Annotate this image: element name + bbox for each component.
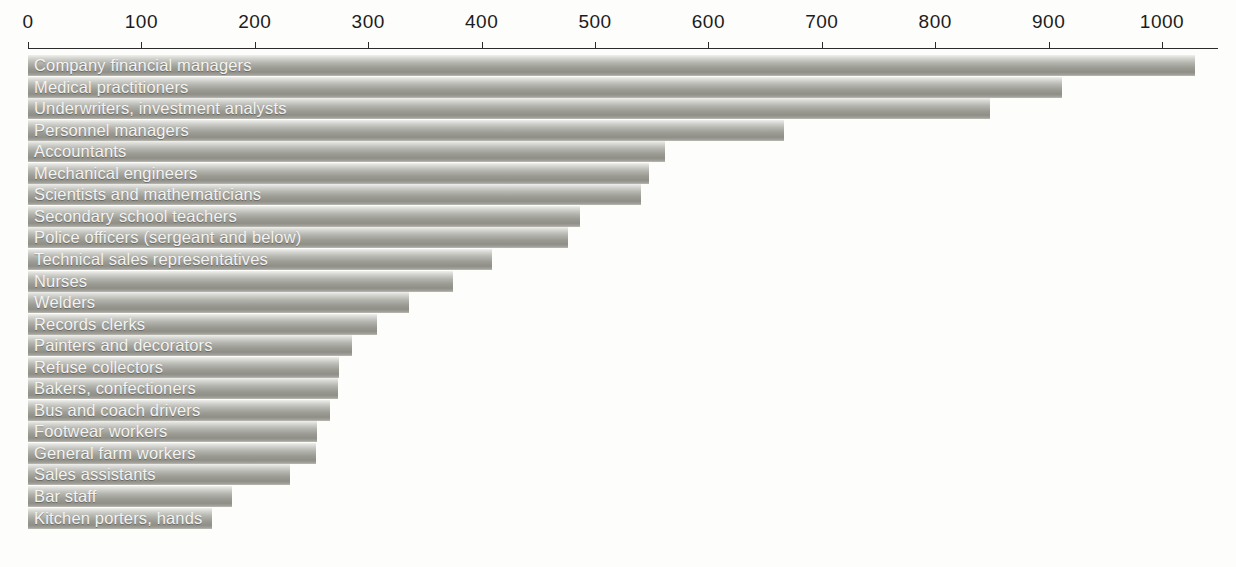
- bar-row[interactable]: Scientists and mathematicians: [28, 184, 641, 205]
- bar-row[interactable]: Police officers (sergeant and below): [28, 227, 568, 248]
- bar[interactable]: [28, 378, 338, 399]
- axis-tick-mark: [141, 42, 142, 49]
- bar-row[interactable]: General farm workers: [28, 443, 316, 464]
- axis-tick-label: 500: [578, 11, 611, 33]
- bar-row[interactable]: Secondary school teachers: [28, 206, 580, 227]
- axis-line: [28, 48, 1218, 49]
- bar[interactable]: [28, 141, 665, 162]
- bar[interactable]: [28, 184, 641, 205]
- bar[interactable]: [28, 464, 290, 485]
- axis-tick-mark: [28, 42, 29, 49]
- bar[interactable]: [28, 271, 453, 292]
- bar-row[interactable]: Bar staff: [28, 486, 232, 507]
- bar[interactable]: [28, 227, 568, 248]
- axis-tick-label: 1000: [1140, 11, 1184, 33]
- axis-tick-mark: [935, 42, 936, 49]
- axis-tick-label: 100: [125, 11, 158, 33]
- axis-tick-label: 0: [22, 11, 33, 33]
- bar-row[interactable]: Mechanical engineers: [28, 163, 649, 184]
- bar-row[interactable]: Footwear workers: [28, 421, 317, 442]
- axis-tick-mark: [482, 42, 483, 49]
- axis-tick-mark: [1049, 42, 1050, 49]
- bar-row[interactable]: Personnel managers: [28, 120, 784, 141]
- bar[interactable]: [28, 508, 212, 529]
- axis-tick-mark: [822, 42, 823, 49]
- bar-row[interactable]: Welders: [28, 292, 409, 313]
- bar-row[interactable]: Bus and coach drivers: [28, 400, 330, 421]
- x-axis: 01002003004005006007008009001000: [0, 0, 1236, 52]
- axis-tick-label: 700: [805, 11, 838, 33]
- bar-row[interactable]: Sales assistants: [28, 464, 290, 485]
- plot-area: Company financial managersMedical practi…: [0, 55, 1236, 555]
- bar-row[interactable]: Bakers, confectioners: [28, 378, 338, 399]
- axis-tick-label: 800: [919, 11, 952, 33]
- axis-tick-mark: [708, 42, 709, 49]
- bar[interactable]: [28, 421, 317, 442]
- bar[interactable]: [28, 292, 409, 313]
- bar[interactable]: [28, 120, 784, 141]
- bar-chart: 01002003004005006007008009001000 Company…: [0, 0, 1236, 567]
- bar-row[interactable]: Painters and decorators: [28, 335, 352, 356]
- bar-row[interactable]: Nurses: [28, 271, 453, 292]
- axis-tick-mark: [368, 42, 369, 49]
- bar-row[interactable]: Underwriters, investment analysts: [28, 98, 990, 119]
- bar-row[interactable]: Kitchen porters, hands: [28, 508, 212, 529]
- bar[interactable]: [28, 55, 1195, 76]
- axis-tick-label: 400: [465, 11, 498, 33]
- bar-row[interactable]: Company financial managers: [28, 55, 1195, 76]
- bar[interactable]: [28, 206, 580, 227]
- axis-tick-mark: [1162, 42, 1163, 49]
- bar[interactable]: [28, 249, 492, 270]
- bar[interactable]: [28, 163, 649, 184]
- bar-row[interactable]: Refuse collectors: [28, 357, 339, 378]
- axis-tick-label: 200: [238, 11, 271, 33]
- bar[interactable]: [28, 443, 316, 464]
- axis-tick-mark: [255, 42, 256, 49]
- bar-row[interactable]: Medical practitioners: [28, 77, 1062, 98]
- axis-tick-label: 300: [352, 11, 385, 33]
- bar[interactable]: [28, 400, 330, 421]
- axis-tick-mark: [595, 42, 596, 49]
- axis-tick-label: 600: [692, 11, 725, 33]
- bar[interactable]: [28, 486, 232, 507]
- bar[interactable]: [28, 335, 352, 356]
- bar-row[interactable]: Accountants: [28, 141, 665, 162]
- bar-row[interactable]: Technical sales representatives: [28, 249, 492, 270]
- bar[interactable]: [28, 98, 990, 119]
- axis-tick-label: 900: [1032, 11, 1065, 33]
- bar[interactable]: [28, 314, 377, 335]
- bar[interactable]: [28, 77, 1062, 98]
- bar[interactable]: [28, 357, 339, 378]
- bar-row[interactable]: Records clerks: [28, 314, 377, 335]
